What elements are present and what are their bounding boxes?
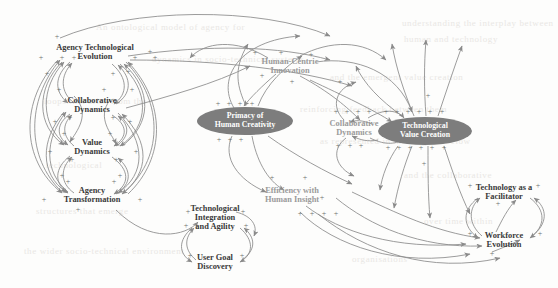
polarity-sign: + [397,144,402,152]
polarity-sign: + [112,178,117,186]
polarity-sign: + [118,172,123,180]
polarity-sign: + [322,210,327,218]
polarity-sign: + [279,49,284,57]
polarity-sign: + [250,100,255,108]
polarity-sign: + [348,142,353,150]
polarity-sign: + [239,136,244,144]
polarity-sign: + [217,136,222,144]
polarity-sign: + [66,178,71,186]
polarity-sign: + [417,108,422,116]
polarity-sign: + [359,142,364,150]
polarity-sign: + [227,100,232,108]
polarity-sign: + [68,114,73,122]
polarity-sign: + [72,54,77,62]
polarity-sign: + [244,222,249,230]
polarity-sign: + [60,54,65,62]
polarity-sign: + [153,54,158,62]
polarity-sign: + [138,196,143,204]
polarity-sign: + [309,51,314,59]
polarity-sign: + [216,100,221,108]
polarity-sign: + [384,108,389,116]
edge-layer [0,0,558,288]
polarity-sign: + [134,148,139,156]
polarity-sign: + [334,108,339,116]
polarity-sign: + [406,108,411,116]
polarity-sign: + [386,144,391,152]
node-technological-value-creation[interactable]: TechnologicalValue Creation [378,117,472,145]
polarity-sign: + [184,222,189,230]
causal-loop-diagram-canvas: An ontological model of agency for under… [0,0,558,288]
polarity-sign: + [442,144,447,152]
polarity-sign: + [253,49,258,57]
polarity-sign: + [270,174,275,182]
polarity-sign: + [303,174,308,182]
polarity-sign: + [102,86,107,94]
polarity-sign: + [395,108,400,116]
polarity-sign: + [241,208,246,216]
polarity-sign: + [430,144,435,152]
polarity-sign: + [422,160,427,168]
polarity-sign: + [76,206,81,214]
polarity-sign: + [356,108,361,116]
polarity-sign: + [336,142,341,150]
polarity-sign: + [57,86,62,94]
polarity-sign: + [496,200,501,208]
polarity-sign: + [490,250,495,258]
polarity-sign: + [111,114,116,122]
polarity-sign: + [428,108,433,116]
polarity-sign: + [148,48,153,56]
polarity-sign: + [39,54,44,62]
polarity-sign: + [320,194,325,202]
polarity-sign: + [338,78,343,86]
polarity-sign: + [345,108,350,116]
node-technological-value-creation-label: TechnologicalValue Creation [400,122,450,139]
polarity-sign: + [367,108,372,116]
polarity-sign: + [468,230,473,238]
polarity-sign: + [62,130,67,138]
polarity-sign: + [60,172,65,180]
polarity-sign: + [114,156,119,164]
polarity-sign: + [126,68,131,76]
polarity-sign: + [45,70,50,78]
polarity-sign: + [133,54,138,62]
polarity-sign: + [468,182,473,190]
polarity-sign: + [53,118,58,126]
polarity-sign: + [130,86,135,94]
polarity-sign: + [426,92,431,100]
polarity-sign: + [298,210,303,218]
polarity-sign: + [240,252,245,260]
polarity-sign: + [310,210,315,218]
polarity-sign: + [419,144,424,152]
polarity-sign: + [260,72,265,80]
polarity-sign: + [334,210,339,218]
polarity-sign: + [111,70,116,78]
polarity-sign: + [290,78,295,86]
polarity-sign: + [48,148,53,156]
polarity-sign: + [408,144,413,152]
polarity-sign: + [228,136,233,144]
polarity-sign: + [108,130,113,138]
polarity-sign: + [42,196,47,204]
node-primacy-of-human-creativity-label: Primacy ofHuman Creativity [215,112,276,129]
polarity-sign: + [538,230,543,238]
polarity-sign: + [128,118,133,126]
node-primacy-of-human-creativity[interactable]: Primacy ofHuman Creativity [197,107,293,135]
polarity-sign: + [440,108,445,116]
polarity-sign: + [186,208,191,216]
polarity-sign: + [70,156,75,164]
polarity-sign: + [188,252,193,260]
polarity-sign: + [536,182,541,190]
polarity-sign: + [238,100,243,108]
polarity-sign: + [55,33,60,41]
